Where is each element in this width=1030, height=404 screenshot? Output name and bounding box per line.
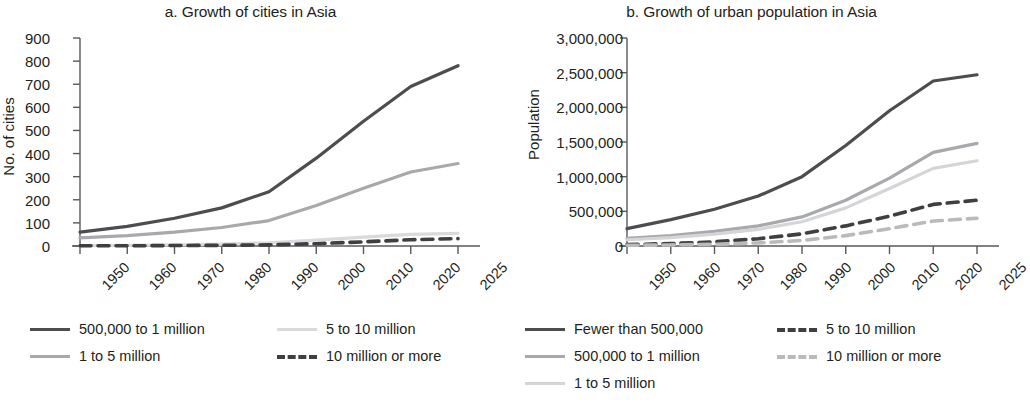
x-tick-label: 2010	[382, 259, 416, 293]
legend-swatch-icon	[777, 328, 817, 332]
legend-label: 500,000 to 1 million	[79, 322, 205, 337]
panel-b-y-ticks: 0500,0001,000,0001,500,0002,000,0002,500…	[501, 0, 623, 240]
y-tick-label: 0	[615, 239, 623, 254]
y-tick-label: 500	[25, 123, 50, 138]
legend-swatch-icon	[277, 355, 317, 359]
x-tick-label: 2020	[952, 259, 986, 293]
y-tick-label: 2,000,000	[556, 100, 623, 115]
x-tick-label: 1950	[645, 259, 679, 293]
y-tick-label: 400	[25, 146, 50, 161]
legend-label: Fewer than 500,000	[574, 322, 703, 337]
legend-item: Fewer than 500,000	[525, 316, 703, 343]
x-tick-label: 2000	[335, 259, 369, 293]
x-tick-label: 2000	[864, 259, 898, 293]
legend-item: 1 to 5 million	[30, 343, 205, 370]
y-tick-label: 1,500,000	[556, 135, 623, 150]
legend-item: 500,000 to 1 million	[525, 343, 703, 370]
legend-item: 500,000 to 1 million	[30, 316, 205, 343]
y-tick-label: 0	[42, 239, 50, 254]
x-tick-label: 1970	[733, 259, 767, 293]
y-tick-label: 2,500,000	[556, 65, 623, 80]
legend-swatch-icon	[777, 355, 817, 359]
series-line	[627, 161, 977, 240]
series-line	[80, 163, 458, 237]
x-tick-label: 1970	[193, 259, 227, 293]
y-tick-label: 200	[25, 192, 50, 207]
series-line	[627, 75, 977, 229]
legend-item: 5 to 10 million	[277, 316, 441, 343]
legend-item: 5 to 10 million	[777, 316, 941, 343]
panel-a-title: a. Growth of cities in Asia	[0, 3, 501, 21]
panel-a: a. Growth of cities in Asia No. of citie…	[0, 0, 501, 404]
legend-label: 10 million or more	[826, 349, 941, 364]
x-tick-label: 1950	[98, 259, 132, 293]
legend-item: 1 to 5 million	[525, 370, 703, 397]
x-tick-label: 2010	[908, 259, 942, 293]
panel-a-plot: No. of cities 01002003004005006007008009…	[0, 24, 501, 264]
legend-label: 1 to 5 million	[574, 376, 655, 391]
y-tick-label: 300	[25, 169, 50, 184]
panel-b: b. Growth of urban population in Asia Po…	[501, 0, 1002, 404]
legend-item: 10 million or more	[277, 343, 441, 370]
y-tick-label: 3,000,000	[556, 31, 623, 46]
x-tick-label: 1980	[240, 259, 274, 293]
x-tick-label: 1980	[777, 259, 811, 293]
y-tick-label: 100	[25, 215, 50, 230]
y-tick-label: 1,000,000	[556, 169, 623, 184]
panel-b-plot: Population 0500,0001,000,0001,500,0002,0…	[501, 24, 1002, 264]
x-tick-label: 2020	[429, 259, 463, 293]
y-tick-label: 600	[25, 100, 50, 115]
x-tick-label: 1960	[146, 259, 180, 293]
legend-label: 5 to 10 million	[826, 322, 915, 337]
legend-swatch-icon	[30, 328, 70, 331]
x-tick-label: 2025	[995, 259, 1029, 293]
panel-a-svg	[0, 24, 501, 264]
legend-swatch-icon	[30, 355, 70, 358]
legend-swatch-icon	[525, 355, 565, 358]
legend-label: 500,000 to 1 million	[574, 349, 700, 364]
x-tick-label: 1990	[820, 259, 854, 293]
x-tick-label: 1990	[287, 259, 321, 293]
legend-swatch-icon	[525, 382, 565, 385]
legend-swatch-icon	[525, 328, 565, 331]
x-tick-label: 1960	[689, 259, 723, 293]
y-tick-label: 500,000	[569, 204, 623, 219]
legend-item: 10 million or more	[777, 343, 941, 370]
panel-a-y-ticks: 0100200300400500600700800900	[0, 0, 50, 240]
y-tick-label: 900	[25, 31, 50, 46]
y-tick-label: 800	[25, 54, 50, 69]
legend-label: 1 to 5 million	[79, 349, 160, 364]
legend-swatch-icon	[277, 328, 317, 331]
legend-label: 10 million or more	[326, 349, 441, 364]
y-tick-label: 700	[25, 77, 50, 92]
series-line	[80, 66, 458, 232]
legend-label: 5 to 10 million	[326, 322, 415, 337]
